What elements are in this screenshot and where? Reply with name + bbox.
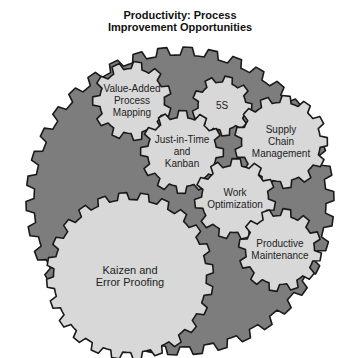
gear-label-supply-chain-management: SupplyChainManagement xyxy=(252,124,310,160)
gear-label-line: Work xyxy=(207,187,263,199)
gear-label-line: Optimization xyxy=(207,199,263,211)
gear-label-value-added-process-mapping: Value-AddedProcessMapping xyxy=(103,83,160,119)
gear-label-work-optimization: WorkOptimization xyxy=(207,187,263,211)
gear-label-kaizen-and-error-proofing: Kaizen andError Proofing xyxy=(96,264,164,288)
gear-label-line: Kanban xyxy=(155,158,210,170)
gear-label-line: Chain xyxy=(252,136,310,148)
gear-label-line: Error Proofing xyxy=(96,276,164,288)
gear-label-line: Process xyxy=(103,95,160,107)
gear-label-line: Management xyxy=(252,148,310,160)
gear-label-line: Value-Added xyxy=(103,83,160,95)
gear-label-line: Just-in-Time xyxy=(155,134,210,146)
gear-label-just-in-time-and-kanban: Just-in-TimeandKanban xyxy=(155,134,210,170)
gear-label-line: Kaizen and xyxy=(96,264,164,276)
gear-label-productive-maintenance: ProductiveMaintenance xyxy=(251,238,308,262)
gear-label-line: Productive xyxy=(251,238,308,250)
gears-diagram xyxy=(0,0,360,358)
gear-label-line: Maintenance xyxy=(251,250,308,262)
gear-label-line: Supply xyxy=(252,124,310,136)
gear-label-line: 5S xyxy=(216,100,228,112)
gear-label-line: Mapping xyxy=(103,107,160,119)
gear-label-5s: 5S xyxy=(216,100,228,112)
gear-label-line: and xyxy=(155,146,210,158)
